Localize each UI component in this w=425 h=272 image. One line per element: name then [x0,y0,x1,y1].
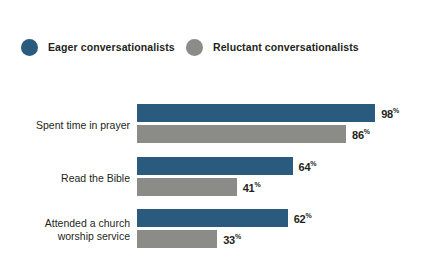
bar-group-bars: 62% 33% [137,209,425,251]
bar-row: 62% [137,209,312,227]
percent-sign: % [254,181,260,188]
bar-group-bars: 64% 41% [137,157,425,199]
bar-group: Spent time in prayer 98% 86% [0,104,425,146]
percent-sign: % [306,212,312,219]
legend-label: Reluctant conversationalists [213,41,359,53]
bar-value-label: 41% [243,181,261,194]
bar-eager [137,209,288,227]
legend-dot-icon [186,39,203,56]
bar-group-bars: 98% 86% [137,104,425,146]
chart-legend: Eager conversationalists Reluctant conve… [0,33,425,61]
plot-area: Spent time in prayer 98% 86% Read the [0,104,425,256]
percent-sign: % [310,160,316,167]
bar-value-label: 33% [223,233,241,246]
category-label: Attended a church worship service [0,217,130,243]
bar-row: 33% [137,230,241,248]
bar-eager [137,157,293,175]
bar-reluctant [137,178,237,196]
bar-group: Read the Bible 64% 41% [0,157,425,199]
legend-item-reluctant-conversationalists: Reluctant conversationalists [186,33,359,61]
legend-dot-icon [21,39,38,56]
bar-value-label: 86% [352,128,370,141]
percent-sign: % [364,128,370,135]
category-label: Read the Bible [0,172,130,185]
bar-row: 41% [137,178,261,196]
category-label: Spent time in prayer [0,119,130,132]
bar-reluctant [137,230,217,248]
bar-row: 64% [137,157,317,175]
bar-eager [137,104,375,122]
bar-value-label: 98% [381,107,399,120]
legend-item-eager-conversationalists: Eager conversationalists [21,33,175,61]
grouped-bar-chart: Eager conversationalists Reluctant conve… [0,0,425,272]
bar-value-label: 62% [294,212,312,225]
legend-label: Eager conversationalists [48,41,175,53]
bar-row: 86% [137,125,370,143]
percent-sign: % [393,107,399,114]
bar-reluctant [137,125,346,143]
bar-value-label: 64% [299,160,317,173]
percent-sign: % [235,233,241,240]
bar-row: 98% [137,104,399,122]
bar-group: Attended a church worship service 62% 33… [0,209,425,251]
